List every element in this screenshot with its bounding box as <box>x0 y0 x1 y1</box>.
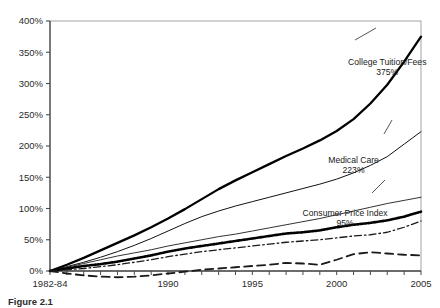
price-change-line-chart: 0%50%100%150%200%250%300%350%400% 1982-8… <box>0 0 440 308</box>
figure-container: 0%50%100%150%200%250%300%350%400% 1982-8… <box>0 0 440 308</box>
x-tick-label: 2005 <box>410 278 431 289</box>
figure-caption: Figure 2.1 <box>8 296 53 307</box>
annotation-series-name: College Tuition/Fees <box>348 57 426 67</box>
y-tick-label: 250% <box>19 109 44 120</box>
y-tick-label: 350% <box>19 47 44 58</box>
annotation-value: 95% <box>337 218 355 228</box>
annotation-value: 223% <box>343 165 365 175</box>
y-tick-label: 200% <box>19 140 44 151</box>
x-tick-label: 1982-84 <box>33 278 68 289</box>
x-tick-label: 1990 <box>157 278 178 289</box>
y-tick-label: 50% <box>24 234 44 245</box>
y-tick-label: 300% <box>19 78 44 89</box>
y-tick-label: 400% <box>19 15 44 26</box>
annotation-series-name: Medical Care <box>328 155 379 165</box>
y-tick-label: 100% <box>19 203 44 214</box>
annotation-series-name: Consumer Price Index <box>303 208 389 218</box>
x-tick-label: 1995 <box>242 278 263 289</box>
x-tick-label: 2000 <box>326 278 347 289</box>
annotation-value: 375% <box>376 67 398 77</box>
y-tick-label: 0% <box>29 265 43 276</box>
x-axis-tick-labels: 1982-841990199520002005 <box>33 278 432 289</box>
y-tick-label: 150% <box>19 172 44 183</box>
y-axis-tick-labels: 0%50%100%150%200%250%300%350%400% <box>19 15 44 276</box>
